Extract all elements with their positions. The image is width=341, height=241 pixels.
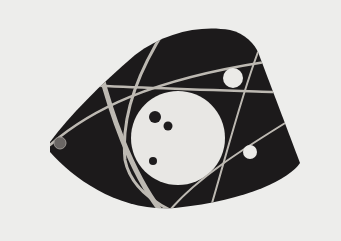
- dot-small: [149, 157, 157, 165]
- lower-right-hole: [243, 145, 257, 159]
- dot-large: [149, 111, 161, 123]
- brooch-artwork: [0, 0, 341, 241]
- brooch-photograph: [0, 0, 341, 241]
- dot-medium: [164, 122, 173, 131]
- large-disc: [131, 91, 225, 185]
- left-stone: [54, 137, 66, 149]
- upper-right-hole: [223, 68, 243, 88]
